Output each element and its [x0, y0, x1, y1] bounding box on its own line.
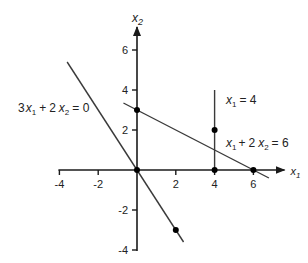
point-0-0	[134, 167, 140, 173]
point-4-0	[212, 167, 218, 173]
x2-axis-ticks: 642-2-4	[118, 44, 137, 256]
point-0-3	[134, 107, 140, 113]
x2-tick-label: -4	[118, 244, 128, 256]
x2-tick-label: -2	[118, 204, 128, 216]
x2-tick-label: 6	[122, 44, 128, 56]
line-x1-plus-2x2-eq-6	[123, 103, 269, 178]
x1-tick-label: 2	[173, 178, 179, 190]
label-x1-plus-2x2-eq-6: x1+2x2= 6	[225, 136, 289, 152]
x1-tick-label: -4	[55, 178, 65, 190]
x1-tick-label: -2	[93, 178, 103, 190]
x2-axis-label: x2	[131, 11, 143, 27]
x2-tick-label: 2	[122, 124, 128, 136]
point-4-2	[212, 127, 218, 133]
x1-tick-label: 4	[212, 178, 218, 190]
point-2--3	[173, 227, 179, 233]
diagram-canvas: -4-2246 642-2-4 x1 x2 3x1+2x2= 0 x1+2x2=…	[0, 0, 308, 263]
x2-tick-label: 4	[122, 84, 128, 96]
label-x1-eq-4: x1= 4	[225, 93, 257, 109]
x1-tick-label: 6	[250, 178, 256, 190]
x1-axis-ticks: -4-2246	[55, 170, 257, 190]
label-3x1-plus-2x2-eq-0: 3x1+2x2= 0	[18, 101, 90, 117]
point-6-0	[250, 167, 256, 173]
x1-axis-label: x1	[290, 165, 301, 180]
